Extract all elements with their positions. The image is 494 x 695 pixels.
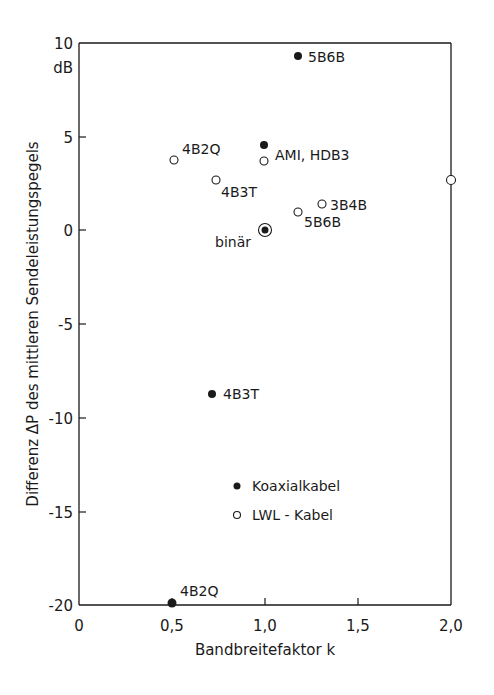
annotation-5b6b-lwl: 5B6B xyxy=(304,214,341,230)
legend-open-marker xyxy=(234,512,241,519)
x-axis-ticks xyxy=(172,598,358,605)
y-unit-label: dB xyxy=(53,59,73,77)
x-tick-1-0: 1,0 xyxy=(253,617,277,635)
x-axis-title: Bandbreitefaktor k xyxy=(195,641,336,659)
y-axis-tick-labels: 10 dB 5 0 -5 -10 -15 -20 xyxy=(49,35,74,615)
point-4b2q-koax xyxy=(168,599,177,608)
point-5b6b-lwl xyxy=(294,208,302,216)
annotation-5b6b-koax: 5B6B xyxy=(308,49,345,65)
x-tick-0: 0 xyxy=(74,617,84,635)
point-4b3t-lwl xyxy=(212,176,220,184)
y-axis-ticks xyxy=(79,137,86,512)
y-tick-0: 0 xyxy=(63,222,73,240)
y-tick-10: 10 xyxy=(54,35,73,53)
x-tick-1-5: 1,5 xyxy=(346,617,370,635)
annotation-4b3t-lwl: 4B3T xyxy=(221,184,257,200)
x-axis-tick-labels: 0 0,5 1,0 1,5 2,0 xyxy=(74,617,463,635)
legend-filled-marker xyxy=(234,483,241,490)
legend-lwl-kabel: LWL - Kabel xyxy=(252,507,333,523)
annotation-ami-hdb3: AMI, HDB3 xyxy=(275,147,350,163)
annotation-4b2q-lwl: 4B2Q xyxy=(182,141,220,157)
annotation-4b2q-koax: 4B2Q xyxy=(180,583,218,599)
x-tick-0-5: 0,5 xyxy=(160,617,184,635)
legend: Koaxialkabel LWL - Kabel xyxy=(234,478,341,523)
y-tick-minus-10: -10 xyxy=(49,410,74,428)
y-axis-title: Differenz ΔP des mittleren Sendeleistung… xyxy=(24,141,42,506)
y-tick-minus-5: -5 xyxy=(58,316,73,334)
point-edge-lwl xyxy=(447,176,456,185)
point-4b2q-lwl xyxy=(170,156,178,164)
x-tick-2-0: 2,0 xyxy=(439,617,463,635)
point-binaer-koax xyxy=(262,227,269,234)
point-ami-hdb3-lwl xyxy=(260,157,268,165)
legend-koaxialkabel: Koaxialkabel xyxy=(252,478,340,494)
annotation-3b4b-lwl: 3B4B xyxy=(330,197,367,213)
y-tick-minus-20: -20 xyxy=(49,597,74,615)
point-3b4b-lwl xyxy=(318,200,326,208)
annotation-binaer: binär xyxy=(215,234,251,250)
series-koaxialkabel xyxy=(168,52,303,608)
y-tick-5: 5 xyxy=(63,129,73,147)
y-tick-minus-15: -15 xyxy=(49,504,74,522)
point-5b6b-koax xyxy=(294,52,302,60)
point-ami-hdb3-koax xyxy=(260,141,268,149)
point-4b3t-koax xyxy=(208,390,216,398)
annotation-4b3t-koax: 4B3T xyxy=(223,386,259,402)
scatter-chart: 10 dB 5 0 -5 -10 -15 -20 0 0,5 1,0 1,5 2… xyxy=(0,0,494,695)
